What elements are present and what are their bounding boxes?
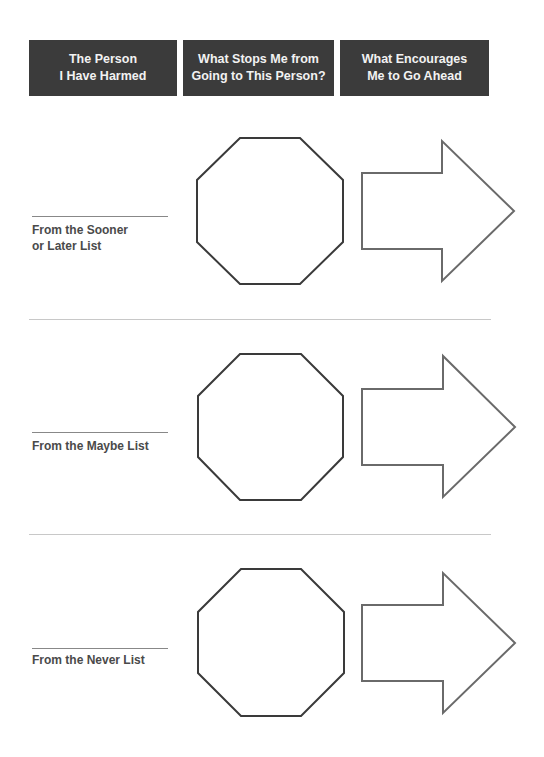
go-arrow-icon[interactable] <box>362 356 515 497</box>
go-arrow-icon[interactable] <box>362 573 515 713</box>
stop-octagon-icon[interactable] <box>198 354 343 500</box>
worksheet-shapes <box>0 0 544 757</box>
stop-octagon-icon[interactable] <box>198 569 344 716</box>
go-arrow-icon[interactable] <box>362 141 514 281</box>
stop-octagon-icon[interactable] <box>197 138 343 284</box>
